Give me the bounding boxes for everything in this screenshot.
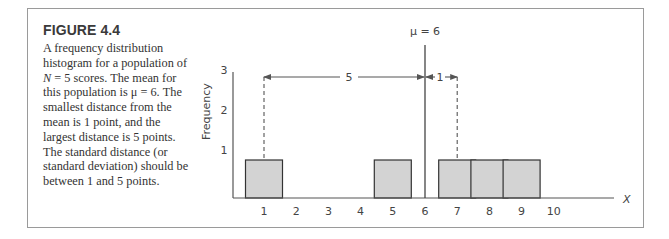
x-tick-9: 9	[518, 205, 525, 218]
histogram-bars	[246, 160, 541, 198]
histogram-chart: XFrequency 12345678910123 μ = 651	[0, 0, 669, 239]
x-tick-5: 5	[389, 205, 396, 218]
bar-x-8	[471, 160, 508, 198]
y-tick-2: 2	[221, 104, 228, 117]
x-tick-1: 1	[261, 205, 268, 218]
bar-x-1	[246, 160, 283, 198]
bar-x-7	[439, 160, 476, 198]
x-tick-6: 6	[422, 205, 429, 218]
y-tick-1: 1	[221, 144, 228, 157]
mean-label: μ = 6	[410, 25, 440, 38]
x-tick-4: 4	[357, 205, 364, 218]
bar-x-5	[374, 160, 411, 198]
y-axis-label: Frequency	[200, 83, 213, 140]
x-tick-8: 8	[486, 205, 493, 218]
x-axis-label: X	[622, 193, 631, 206]
bar-x-9	[503, 160, 540, 198]
distance-label-5: 5	[346, 71, 353, 84]
y-tick-3: 3	[221, 64, 228, 77]
distance-label-1: 1	[437, 71, 444, 84]
x-tick-7: 7	[454, 205, 461, 218]
x-tick-10: 10	[547, 205, 561, 218]
chart-annotations: μ = 651	[264, 25, 457, 198]
x-tick-3: 3	[325, 205, 332, 218]
x-tick-2: 2	[293, 205, 300, 218]
